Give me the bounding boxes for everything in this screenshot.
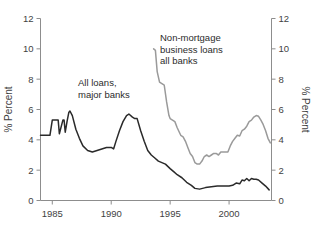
annotation-all-loans-major-banks: All loans,major banks [78, 77, 130, 100]
y-tick-label-right: 0 [279, 195, 284, 206]
y-tick-label-right: 10 [279, 43, 290, 54]
x-tick-label: 1995 [160, 208, 181, 219]
y-tick-label-right: 8 [279, 74, 284, 85]
series-group [41, 49, 271, 190]
annotation-line: all banks [160, 55, 198, 66]
y-tick-label-right: 4 [279, 134, 284, 145]
series-line-all-loans-major-banks [41, 111, 270, 190]
y-tick-label-left: 10 [23, 43, 34, 54]
annotation-line: All loans, [78, 77, 117, 88]
line-chart: 0246810120246810121985199019952000% Perc… [0, 0, 312, 227]
x-tick-label: 1990 [101, 208, 122, 219]
y-tick-label-left: 4 [28, 134, 33, 145]
annotation-line: major banks [78, 89, 130, 100]
series-line-non-mortgage-business-loans-all-banks [154, 49, 271, 164]
annotation-line: Non-mortgage [160, 32, 221, 43]
y-tick-label-left: 0 [28, 195, 33, 206]
annotations-group: All loans,major banksNon-mortgagebusines… [78, 32, 223, 100]
x-tick-label: 1985 [42, 208, 63, 219]
y-tick-label-right: 6 [279, 104, 284, 115]
annotation-non-mortgage-business-loans-all-banks: Non-mortgagebusiness loansall banks [160, 32, 223, 66]
y-axis-label-right: % Percent [300, 86, 311, 132]
y-axis-label-left: % Percent [3, 86, 14, 132]
y-tick-label-left: 6 [28, 104, 33, 115]
axes-group: 0246810120246810121985199019952000% Perc… [3, 13, 311, 219]
y-tick-label-left: 12 [23, 13, 34, 24]
y-tick-label-left: 2 [28, 165, 33, 176]
y-tick-label-left: 8 [28, 74, 33, 85]
annotation-line: business loans [160, 44, 223, 55]
x-tick-label: 2000 [219, 208, 240, 219]
y-tick-label-right: 2 [279, 165, 284, 176]
chart-container: .. 0246810120246810121985199019952000% P… [0, 0, 312, 227]
y-tick-label-right: 12 [279, 13, 290, 24]
